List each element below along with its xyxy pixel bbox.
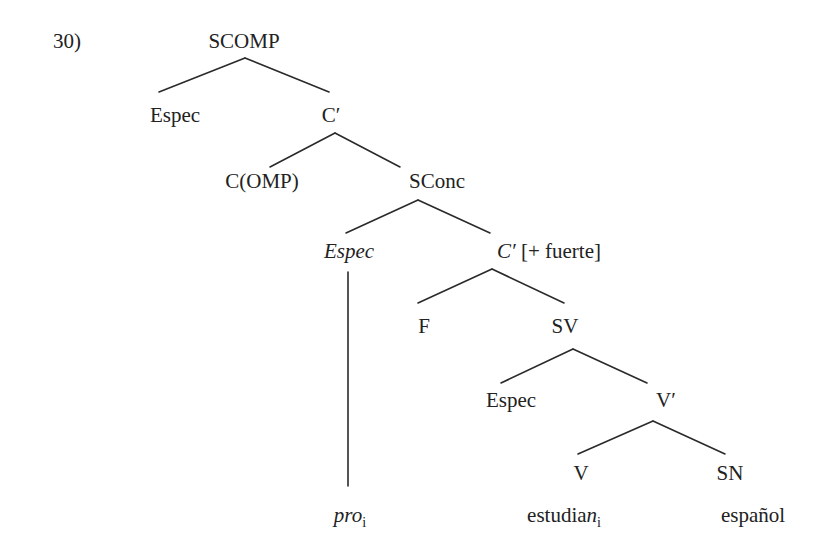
node-v: V — [573, 461, 588, 485]
node-estudian-part: i — [597, 515, 601, 530]
syntax-tree-diagram: 30) SCOMPEspecC′C(OMP)SConcEspecC′ [+ fu… — [0, 0, 829, 556]
node-pro-part: pro — [332, 503, 362, 527]
node-espec-2: Espec — [323, 239, 375, 263]
node-sn-part: SN — [717, 461, 744, 485]
node-c-bar: C′ — [322, 103, 341, 127]
node-estudian: estudiani — [527, 503, 601, 530]
node-pro: proi — [332, 503, 366, 530]
node-pro-part: i — [362, 515, 366, 530]
edge-sv-to-v-bar — [573, 349, 647, 383]
node-c-bar-fuerte-part: C′ — [497, 239, 516, 263]
node-espec-2-part: Espec — [323, 239, 375, 263]
node-f: F — [418, 314, 430, 338]
edge-v-bar-to-v — [578, 421, 653, 454]
edge-sconc-to-espec-2 — [346, 200, 418, 233]
node-espec-1: Espec — [150, 103, 200, 127]
node-scomp-part: SCOMP — [208, 29, 279, 53]
node-espec-3: Espec — [486, 388, 536, 412]
node-sn: SN — [717, 461, 744, 485]
node-c-bar-fuerte-part: [+ fuerte] — [516, 239, 601, 263]
node-v-bar-part: V′ — [656, 388, 676, 412]
node-sv-part: SV — [552, 314, 579, 338]
edge-c-bar-fuerte-to-sv — [492, 269, 564, 303]
edge-v-bar-to-sn — [653, 421, 725, 454]
node-sv: SV — [552, 314, 579, 338]
node-espanol-part: español — [721, 503, 785, 527]
edge-c-bar-to-comp — [270, 133, 335, 167]
edge-sconc-to-c-bar-fuerte — [418, 200, 490, 233]
node-comp-part: C(OMP) — [225, 169, 299, 193]
node-sconc-part: SConc — [409, 169, 465, 193]
edge-sv-to-espec-3 — [501, 349, 573, 383]
node-espec-3-part: Espec — [486, 388, 536, 412]
node-f-part: F — [418, 314, 430, 338]
edge-scomp-to-espec-1 — [159, 58, 245, 92]
edge-c-bar-to-sconc — [335, 133, 400, 167]
node-comp: C(OMP) — [225, 169, 299, 193]
node-c-bar-fuerte: C′ [+ fuerte] — [497, 239, 601, 263]
node-v-part: V — [573, 461, 588, 485]
edge-scomp-to-c-bar — [245, 58, 329, 92]
example-number: 30) — [53, 29, 81, 53]
node-estudian-part: estudia — [527, 503, 587, 527]
node-v-bar: V′ — [656, 388, 676, 412]
node-c-bar-part: C′ — [322, 103, 341, 127]
node-espec-1-part: Espec — [150, 103, 200, 127]
node-sconc: SConc — [409, 169, 465, 193]
edge-c-bar-fuerte-to-f — [418, 269, 492, 303]
node-scomp: SCOMP — [208, 29, 279, 53]
tree-edges — [159, 58, 725, 486]
node-estudian-part: n — [587, 503, 598, 527]
node-espanol: español — [721, 503, 785, 527]
